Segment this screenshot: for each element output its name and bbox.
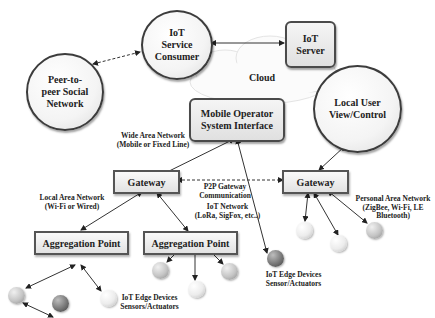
server-line-1: IoT <box>296 33 324 45</box>
edge-device-node <box>366 222 383 239</box>
lan-line-2: (Wi-Fi or Wired) <box>22 203 122 212</box>
edge-mid-annotation: IoT Edge Devices Sensor/Actuators <box>251 271 336 288</box>
link-peer-consumer <box>93 52 140 64</box>
connectors-layer <box>0 0 435 318</box>
iot-architecture-diagram: Cloud IoT Service Consumer Peer-to- peer… <box>0 0 435 318</box>
iot-server-node: IoT Server <box>285 21 336 68</box>
edge-mid-line-2: Sensor/Actuators <box>251 280 336 289</box>
mobile-line-2: System Interface <box>201 120 273 132</box>
iotnet-line-2: (LoRa, SigFox, etc..) <box>185 212 270 221</box>
p2p-annotation: P2P Gateway Communication <box>185 183 265 200</box>
p2p-line-2: Communication <box>185 192 265 201</box>
server-line-2: Server <box>296 45 324 57</box>
gateway-right-node: Gateway <box>282 170 349 194</box>
link-dev1-dev3 <box>23 303 53 317</box>
localuser-line-1: Local User <box>329 97 386 109</box>
pan-annotation: Personal Area Network (ZigBee, Wi-Fi, LE… <box>348 195 435 221</box>
gateway-left-node: Gateway <box>113 170 180 194</box>
edge-device-node <box>267 250 284 267</box>
link-gw-right-dev2 <box>314 193 338 235</box>
peer-line-3: Network <box>42 98 89 110</box>
edge-left-annotation: IoT Edge Devices Sensors/Actuators <box>107 294 192 311</box>
consumer-line-2: Service <box>155 39 199 51</box>
aggregation-left-node: Aggregation Point <box>34 231 129 255</box>
peer-social-network-node: Peer-to- peer Social Network <box>26 53 104 131</box>
edge-device-node <box>152 262 169 279</box>
edge-device-node <box>330 235 347 252</box>
consumer-line-1: IoT <box>155 27 199 39</box>
link-gw-right-dev1 <box>305 193 308 221</box>
mobile-line-1: Mobile Operator <box>201 108 273 120</box>
peer-line-2: peer Social <box>42 86 89 98</box>
lan-annotation: Local Area Network (Wi-Fi or Wired) <box>22 194 122 211</box>
peer-line-1: Peer-to- <box>42 74 89 86</box>
wan-annotation: Wide Area Network (Mobile or Fixed Line) <box>98 132 208 149</box>
edge-device-node <box>52 295 69 312</box>
edge-device-node <box>221 263 238 280</box>
link-agg-left-dev2 <box>81 265 101 291</box>
edge-device-node <box>8 287 25 304</box>
local-user-node: Local User View/Control <box>313 65 402 153</box>
iot-service-consumer-node: IoT Service Consumer <box>141 10 213 80</box>
iot-network-annotation: IoT Network (LoRa, SigFox, etc..) <box>185 203 270 220</box>
link-agg-left-dev1 <box>26 265 75 288</box>
edge-left-line-2: Sensors/Actuators <box>107 303 192 312</box>
pan-line-3: Bluetooth) <box>348 212 435 221</box>
link-gateway-agg-mid <box>157 193 188 231</box>
cloud-label: Cloud <box>232 72 292 84</box>
wan-line-2: (Mobile or Fixed Line) <box>98 141 208 150</box>
consumer-line-3: Consumer <box>155 51 199 63</box>
edge-device-node <box>296 222 313 239</box>
aggregation-mid-node: Aggregation Point <box>143 231 238 255</box>
localuser-line-2: View/Control <box>329 109 386 121</box>
